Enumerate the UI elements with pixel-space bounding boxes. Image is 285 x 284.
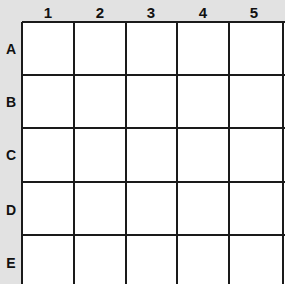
- column-header-5: 5: [228, 4, 280, 21]
- row-header-e: E: [2, 255, 20, 271]
- grid-background: [22, 22, 285, 284]
- grid-line-vertical: [282, 22, 284, 284]
- column-header-3: 3: [125, 4, 177, 21]
- row-header-b: B: [2, 94, 20, 110]
- row-header-a: A: [2, 41, 20, 57]
- grid-line-horizontal: [22, 181, 285, 183]
- grid-line-vertical: [73, 22, 75, 284]
- column-header-1: 1: [22, 4, 74, 21]
- grid-line-vertical: [21, 22, 23, 284]
- grid-line-horizontal: [22, 127, 285, 129]
- grid-line-horizontal: [22, 21, 285, 23]
- grid-line-vertical: [125, 22, 127, 284]
- row-header-c: C: [2, 147, 20, 163]
- grid-line-vertical: [176, 22, 178, 284]
- grid-line-vertical: [228, 22, 230, 284]
- column-header-4: 4: [177, 4, 229, 21]
- row-header-d: D: [2, 202, 20, 218]
- grid-line-horizontal: [22, 74, 285, 76]
- column-header-2: 2: [74, 4, 126, 21]
- grid-line-horizontal: [22, 234, 285, 236]
